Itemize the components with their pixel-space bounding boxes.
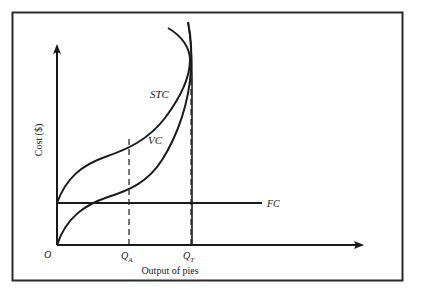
qa-label: QA [121,250,133,264]
x-axis-label: Output of pies [141,265,198,276]
origin-label: O [44,249,51,260]
y-axis-label: Cost ($) [33,124,45,157]
stc-curve [57,28,190,203]
qt-label: QT [183,250,195,264]
vc-label: VC [148,134,163,146]
qa-sub: A [127,256,133,264]
qt-sub: T [190,256,195,264]
figure-frame [13,13,403,281]
stc-label: STC [150,88,170,100]
cost-curves-figure: STC VC FC O QA QT Output of pies Cost ($… [0,0,425,300]
vc-curve [57,22,191,245]
fc-label: FC [266,198,280,209]
